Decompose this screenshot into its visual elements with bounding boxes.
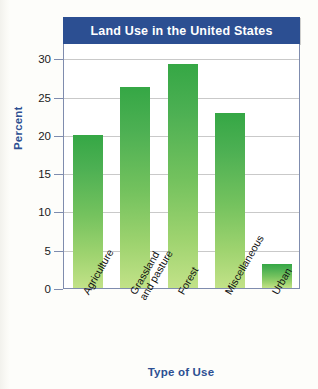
y-tick-label-20: 20	[38, 130, 51, 142]
y-axis: 051015202530	[0, 44, 63, 289]
y-tick-label-15: 15	[38, 168, 51, 180]
plot-frame	[63, 44, 300, 289]
plot-area	[64, 44, 299, 288]
y-tick-label-0: 0	[45, 283, 51, 295]
land-use-bar-chart-figure: Land Use in the United States Percent 05…	[0, 0, 318, 389]
chart-title: Land Use in the United States	[90, 24, 272, 38]
y-tick-label-30: 30	[38, 53, 51, 65]
y-tick-15	[54, 174, 63, 175]
y-tick-25	[54, 98, 63, 99]
chart-title-banner: Land Use in the United States	[63, 17, 300, 44]
y-tick-5	[54, 251, 63, 252]
y-tick-label-25: 25	[38, 92, 51, 104]
y-tick-0	[54, 289, 63, 290]
y-tick-30	[54, 59, 63, 60]
y-tick-20	[54, 136, 63, 137]
y-tick-10	[54, 212, 63, 213]
y-tick-label-5: 5	[45, 245, 51, 257]
x-axis-title: Type of Use	[0, 366, 318, 378]
x-axis-category-labels: AgricultureGrasslandand pastureForestMis…	[63, 289, 300, 359]
gridline-30	[64, 59, 299, 60]
y-tick-label-10: 10	[38, 206, 51, 218]
